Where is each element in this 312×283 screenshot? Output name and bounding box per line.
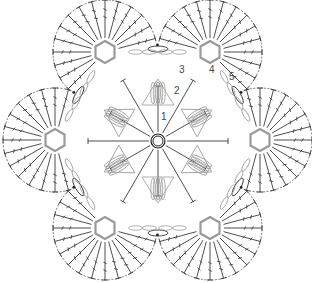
round-label-3: 3	[179, 65, 185, 75]
center-spokes	[88, 79, 228, 203]
fan-petal	[3, 88, 71, 192]
round-label-1: 1	[161, 112, 167, 122]
fan-petal	[244, 88, 312, 192]
chain-rows	[64, 43, 251, 236]
fan-petal	[159, 0, 262, 91]
fan-petal	[53, 0, 156, 91]
round-label-5: 5	[229, 72, 235, 82]
round-label-4: 4	[209, 65, 215, 75]
fan-petal	[159, 189, 262, 280]
fan-petal	[53, 189, 156, 280]
crochet-diagram: 12345	[0, 0, 312, 283]
crochet-chart-svg	[0, 0, 312, 283]
round-label-2: 2	[174, 86, 180, 96]
